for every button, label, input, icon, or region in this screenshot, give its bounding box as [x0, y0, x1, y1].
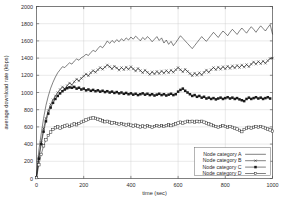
y-tick-label: 0 [30, 176, 33, 182]
y-axis-tick-labels: 0200400600800100012001400160018002000 [21, 4, 33, 182]
y-tick-label: 1800 [21, 21, 33, 27]
y-tick-label: 600 [24, 124, 33, 130]
y-tick-label: 800 [24, 107, 33, 113]
y-axis-title: average download rate (kbps) [3, 55, 9, 129]
y-tick-label: 2000 [21, 4, 33, 10]
legend-entry-label: Node category A [203, 151, 242, 157]
y-tick-label: 1400 [21, 55, 33, 61]
x-axis-title: time (sec) [142, 190, 167, 196]
legend-entry-label: Node category D [203, 170, 242, 176]
x-tick-label: 400 [126, 182, 135, 188]
y-tick-label: 1000 [21, 90, 33, 96]
y-tick-label: 1200 [21, 72, 33, 78]
x-tick-label: 800 [221, 182, 230, 188]
chart-legend: Node category ANode category BNode categ… [195, 148, 271, 177]
chart-figure: 0200400600800100012001400160018002000 02… [0, 0, 287, 201]
x-tick-label: 1000 [267, 182, 279, 188]
y-tick-label: 1600 [21, 38, 33, 44]
x-tick-label: 0 [35, 182, 38, 188]
x-tick-label: 600 [174, 182, 183, 188]
x-axis-tick-labels: 02004006008001000 [35, 182, 279, 188]
download-rate-line-chart: 0200400600800100012001400160018002000 02… [0, 0, 287, 201]
legend-entry-label: Node category C [203, 164, 242, 170]
y-tick-label: 400 [24, 141, 33, 147]
x-tick-label: 200 [79, 182, 88, 188]
legend-entry-label: Node category B [203, 157, 242, 163]
y-tick-label: 200 [24, 158, 33, 164]
